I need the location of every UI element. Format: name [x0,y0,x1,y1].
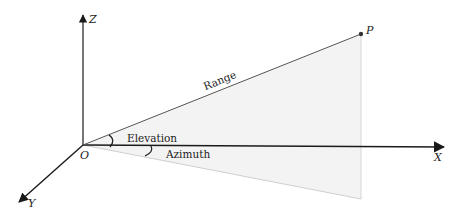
elevation-label: Elevation [127,132,177,144]
point-p-label: P [365,24,374,37]
y-axis-label: Y [28,197,37,210]
diagram-canvas: Z X Y O P Range Elevation Azimuth [0,0,454,217]
origin-label: O [80,149,89,162]
range-plane [83,34,361,199]
z-axis-label: Z [88,13,97,26]
azimuth-label: Azimuth [165,148,210,160]
y-axis [19,145,83,202]
x-axis-label: X [433,151,443,164]
point-p-marker [359,32,363,36]
